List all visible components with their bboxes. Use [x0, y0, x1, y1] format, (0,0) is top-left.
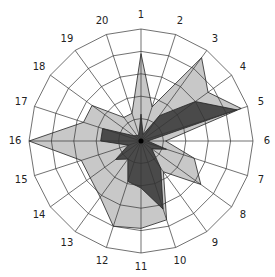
- axis-label-7: 7: [258, 174, 264, 185]
- axis-label-4: 4: [240, 61, 246, 72]
- axis-label-9: 9: [212, 237, 218, 248]
- axis-label-8: 8: [240, 209, 246, 220]
- axis-label-10: 10: [174, 255, 187, 266]
- axis-label-3: 3: [212, 33, 218, 44]
- axis-label-6: 6: [264, 135, 270, 146]
- axis-label-17: 17: [15, 96, 28, 107]
- axis-label-18: 18: [33, 61, 46, 72]
- axis-label-5: 5: [258, 96, 264, 107]
- grid-layer: [29, 29, 253, 253]
- radar-chart: 1234567891011121314151617181920: [0, 0, 275, 277]
- axis-label-16: 16: [9, 135, 22, 146]
- axis-label-14: 14: [33, 209, 46, 220]
- center-dot: [139, 139, 144, 144]
- axis-label-15: 15: [15, 174, 28, 185]
- axis-label-13: 13: [61, 237, 74, 248]
- axis-label-11: 11: [135, 261, 148, 272]
- axis-label-12: 12: [96, 255, 109, 266]
- axis-label-2: 2: [177, 15, 183, 26]
- axis-label-19: 19: [61, 33, 74, 44]
- axis-label-20: 20: [96, 15, 109, 26]
- axis-label-1: 1: [138, 9, 144, 20]
